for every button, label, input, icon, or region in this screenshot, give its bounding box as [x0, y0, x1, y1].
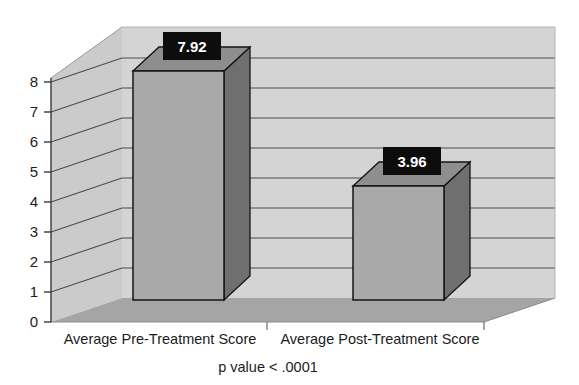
y-tick-label-4: 4 [30, 193, 38, 210]
bar-pre-treatment-side [224, 47, 250, 300]
value-label-text-2: 3.96 [397, 153, 426, 170]
y-axis-tick-labels: 0 1 2 3 4 5 6 7 8 [30, 73, 38, 330]
p-value-annotation: p value < .0001 [218, 359, 318, 375]
bar-post-treatment-front [353, 186, 444, 300]
left-wall [51, 27, 122, 322]
bar-pre-treatment-front [133, 71, 224, 300]
y-tick-label-0: 0 [30, 313, 38, 330]
y-tick-label-2: 2 [30, 253, 38, 270]
y-tick-label-8: 8 [30, 73, 38, 90]
x-axis-label-pre-treatment: Average Pre-Treatment Score [64, 331, 257, 347]
bar-chart-3d: 0 1 2 3 4 5 6 7 8 7.92 [0, 0, 579, 385]
bar-post-treatment-value-label: 3.96 [383, 147, 441, 175]
bar-pre-treatment-value-label: 7.92 [163, 32, 221, 60]
bar-post-treatment[interactable] [353, 162, 470, 300]
y-tick-label-5: 5 [30, 163, 38, 180]
chart-container: 0 1 2 3 4 5 6 7 8 7.92 [0, 0, 579, 385]
bar-pre-treatment[interactable] [133, 47, 250, 300]
y-tick-label-7: 7 [30, 103, 38, 120]
y-tick-label-3: 3 [30, 223, 38, 240]
value-label-text-1: 7.92 [177, 38, 206, 55]
y-tick-label-1: 1 [30, 283, 38, 300]
y-tick-label-6: 6 [30, 133, 38, 150]
x-axis-label-post-treatment: Average Post-Treatment Score [280, 331, 479, 347]
floor [51, 298, 555, 322]
